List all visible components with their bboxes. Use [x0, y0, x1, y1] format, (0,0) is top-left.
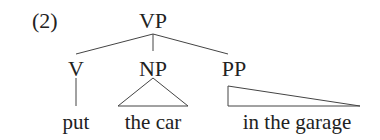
node-pp: PP [222, 58, 246, 80]
leaf-in-the-garage: in the garage [243, 112, 351, 133]
node-v: V [68, 58, 84, 80]
leaf-the-car: the car [125, 112, 182, 133]
node-np: NP [139, 58, 167, 80]
leaf-put: put [63, 112, 90, 133]
